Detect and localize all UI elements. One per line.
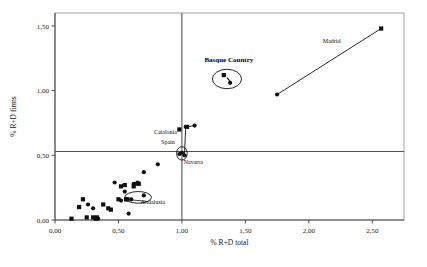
data-point-circle [182, 153, 186, 157]
data-point-square [379, 26, 383, 30]
data-point-circle [91, 206, 95, 210]
annotation-label-andalusia: Andalusia [141, 199, 166, 205]
data-point-square [123, 183, 127, 187]
data-point-circle [129, 197, 133, 201]
x-axis-tick-label: 0,00 [49, 227, 62, 235]
x-axis-tick-label: 2,50 [366, 227, 379, 235]
y-axis-title: % R+D firms [9, 96, 18, 137]
data-point-circle [135, 180, 139, 184]
annotation-label-catalonia: Catalonia [154, 129, 177, 135]
data-point-circle [142, 170, 146, 174]
data-point-circle [142, 193, 146, 197]
data-point-circle [156, 162, 160, 166]
data-point-circle [113, 180, 117, 184]
data-point-circle [193, 123, 197, 127]
data-point-circle [86, 202, 90, 206]
x-axis-tick-label: 0,50 [112, 227, 125, 235]
annotation-label-spain: Spain [161, 139, 175, 145]
chart-canvas: 0,000,501,001,502,002,500,000,501,001,50… [0, 0, 427, 267]
data-point-square [69, 217, 73, 221]
data-point-circle [123, 189, 127, 193]
data-point-circle [127, 211, 131, 215]
y-axis-tick-label: 1,50 [37, 23, 50, 31]
scatter-chart: 0,000,501,001,502,002,500,000,501,001,50… [0, 0, 427, 267]
data-point-square [177, 127, 181, 131]
data-point-square [77, 205, 81, 209]
data-point-circle [275, 92, 279, 96]
annotation-label-madrid: Madrid [323, 38, 341, 44]
data-point-square [81, 197, 85, 201]
y-axis-tick-label: 1,00 [37, 87, 50, 95]
data-point-square [125, 197, 129, 201]
x-axis-tick-label: 2,00 [303, 227, 316, 235]
data-point-square [119, 184, 123, 188]
annotation-label-basque-country: Basque Country [204, 56, 253, 64]
x-axis-title: % R+D total [211, 238, 249, 247]
data-point-square [85, 215, 89, 219]
y-axis-tick-label: 0,50 [37, 152, 50, 160]
data-point-square [222, 73, 226, 77]
data-point-circle [96, 217, 100, 221]
annotation-label-navarra: Navarra [184, 159, 204, 165]
x-axis-tick-label: 1,00 [176, 227, 189, 235]
data-point-square [109, 208, 113, 212]
data-point-square [101, 202, 105, 206]
data-point-circle [184, 125, 188, 129]
x-axis-tick-label: 1,50 [239, 227, 252, 235]
data-point-circle [119, 198, 123, 202]
y-axis-tick-label: 0,00 [37, 217, 50, 225]
